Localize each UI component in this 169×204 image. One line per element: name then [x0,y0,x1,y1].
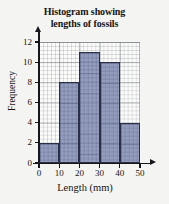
y-axis-tick-label: 12 [12,38,32,47]
y-axis-tick [35,142,40,143]
histogram-bar [79,52,99,163]
x-axis-tick-label: 0 [30,169,48,178]
y-axis-tick [35,82,40,83]
histogram-bar [59,82,79,163]
histogram-bar [120,123,140,163]
x-axis-arrow-icon [150,159,156,165]
y-axis-title: Frequency [7,54,17,128]
bar-series [39,42,140,163]
plot-area [39,42,140,163]
y-axis-tick [35,41,40,42]
x-axis-line [33,163,151,165]
histogram-bar [100,62,120,163]
x-axis-tick-label: 30 [91,169,109,178]
chart-title-line-1: Histogram showing [0,6,169,18]
y-axis-tick-label: 0 [12,159,32,168]
x-axis-tick-label: 50 [131,169,149,178]
chart-title: Histogram showing lengths of fossils [0,6,169,29]
y-axis-line [38,31,40,164]
y-axis-arrow-icon [35,26,41,32]
histogram-bar [39,143,59,163]
y-axis-tick [35,122,40,123]
y-axis-tick-label: 2 [12,138,32,147]
x-axis-tick-label: 10 [50,169,68,178]
y-axis-tick [35,62,40,63]
histogram-screenshot: Histogram showing lengths of fossils 024… [0,0,169,204]
x-axis-title: Length (mm) [20,182,150,193]
y-axis-tick [35,102,40,103]
chart-title-line-2: lengths of fossils [0,18,169,30]
x-axis-tick-label: 40 [111,169,129,178]
x-axis-tick-label: 20 [70,169,88,178]
